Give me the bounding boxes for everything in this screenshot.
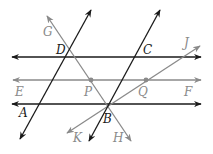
label-A: A xyxy=(18,106,28,120)
label-J: J xyxy=(181,36,190,50)
label-D: D xyxy=(55,43,66,57)
label-B: B xyxy=(102,112,112,126)
label-H: H xyxy=(112,131,124,145)
label-P: P xyxy=(83,85,93,99)
line-BC xyxy=(89,10,160,141)
geometry-diagram: G D C J E P Q F A B K H xyxy=(0,0,213,154)
label-E: E xyxy=(14,85,24,99)
label-K: K xyxy=(72,131,83,145)
point-P-dot xyxy=(89,78,94,83)
label-C: C xyxy=(143,43,152,57)
label-Q: Q xyxy=(138,85,148,99)
label-G: G xyxy=(43,25,53,39)
line-GH xyxy=(47,16,131,141)
point-Q-dot xyxy=(144,78,149,83)
label-F: F xyxy=(183,85,193,99)
